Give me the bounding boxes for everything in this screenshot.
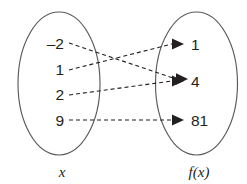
diagram-canvas: –2 1 2 9 1 4 81 x f(x) (0, 0, 247, 184)
domain-value-2: 1 (55, 61, 64, 78)
domain-ellipse (18, 12, 100, 155)
domain-value-1: –2 (47, 35, 64, 52)
arrowhead-9-to-81 (172, 114, 184, 125)
arrowhead-1-to-1 (172, 38, 184, 49)
range-caption: f(x) (189, 164, 210, 181)
range-value-1: 1 (191, 36, 200, 53)
range-value-3: 81 (191, 112, 208, 129)
domain-value-4: 9 (55, 112, 64, 129)
function-mapping-diagram: –2 1 2 9 1 4 81 x f(x) (0, 0, 247, 184)
connector-2-to-4 (69, 81, 172, 95)
domain-value-3: 2 (55, 86, 64, 103)
connector--2-to-4 (69, 43, 176, 79)
domain-caption: x (58, 164, 66, 180)
range-value-2: 4 (191, 73, 200, 90)
